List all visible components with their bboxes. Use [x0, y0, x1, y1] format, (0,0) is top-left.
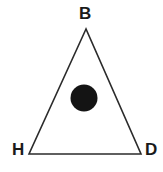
- vertex-label-d: D: [145, 141, 157, 158]
- interior-dot-icon: [71, 85, 98, 112]
- triangle-diagram-svg: [0, 0, 163, 172]
- vertex-label-b: B: [79, 5, 91, 22]
- vertex-label-h: H: [12, 141, 24, 158]
- diagram-canvas: B H D: [0, 0, 163, 172]
